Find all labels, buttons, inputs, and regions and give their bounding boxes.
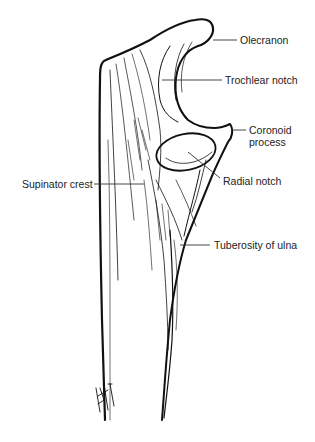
label-coronoid-line1: Coronoid (249, 124, 292, 136)
leader-radial (188, 152, 220, 178)
label-radial-notch: Radial notch (223, 175, 281, 187)
label-supinator-crest: Supinator crest (22, 178, 93, 190)
ulna-outline (100, 19, 213, 420)
anatomy-figure: Olecranon Trochlear notch Coronoid proce… (0, 0, 315, 442)
label-trochlear-notch: Trochlear notch (225, 74, 298, 86)
ulna-illustration (0, 0, 315, 442)
label-tuberosity-of-ulna: Tuberosity of ulna (214, 239, 297, 251)
label-olecranon: Olecranon (240, 34, 288, 46)
label-coronoid-line2: process (249, 136, 286, 148)
